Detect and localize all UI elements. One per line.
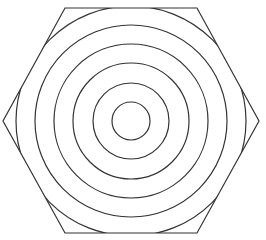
concentric-circles (16, 6, 246, 236)
diagram-svg (0, 0, 266, 240)
circle-ring-4 (54, 44, 208, 198)
hexagon-outline (3, 8, 259, 233)
circle-ring-5 (35, 25, 227, 217)
circle-ring-3 (73, 63, 189, 179)
concentric-circles-hexagon-diagram (0, 0, 266, 240)
circle-ring-6 (16, 6, 246, 236)
circle-ring-1 (112, 102, 150, 140)
circle-ring-2 (93, 83, 169, 159)
